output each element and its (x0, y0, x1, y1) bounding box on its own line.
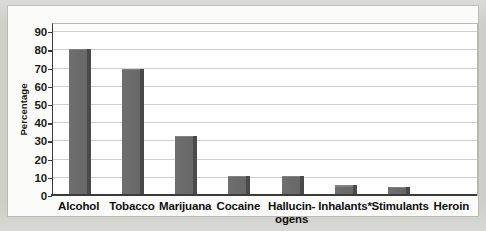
x-category-label-line: Hallucin- (268, 200, 315, 212)
x-category-label-line: ogens (265, 213, 318, 226)
bar (282, 176, 304, 196)
gridline (53, 104, 477, 105)
x-category-label: Marijuana (159, 200, 212, 213)
gridline (53, 122, 477, 123)
x-category-label-line: Heroin (434, 200, 470, 212)
plot-area (52, 23, 478, 196)
x-category-label-line: Cocaine (217, 200, 261, 212)
bar-top-highlight (69, 49, 87, 51)
bar (69, 49, 91, 197)
y-tick-label: 10 (35, 172, 47, 184)
y-axis-title-text: Percentage (18, 83, 29, 135)
y-tick-label: 70 (35, 63, 47, 75)
plot-inner (53, 24, 477, 196)
bar-side-shadow (246, 176, 250, 196)
y-tick-label: 80 (35, 44, 47, 56)
bar (228, 176, 250, 196)
x-category-label-line: Alcohol (58, 200, 99, 212)
bar-side-shadow (87, 49, 91, 197)
x-category-label: Heroin (425, 200, 478, 213)
gridline (53, 68, 477, 69)
figure-background: Percentage 0102030405060708090 AlcoholTo… (0, 0, 486, 231)
y-tick-label: 40 (35, 117, 47, 129)
gridline (53, 31, 477, 32)
x-category-label-line: Tobacco (109, 200, 154, 212)
x-category-label-line: Marijuana (159, 200, 211, 212)
bar-face (282, 176, 300, 196)
bar-top-highlight (175, 136, 193, 138)
bar (122, 69, 144, 196)
gridline (53, 86, 477, 87)
y-tick-label: 90 (35, 26, 47, 38)
y-tick-label: 50 (35, 99, 47, 111)
y-tick-label: 60 (35, 81, 47, 93)
x-axis-line (51, 194, 477, 196)
bar-top-highlight (122, 69, 140, 71)
bar-face (69, 49, 87, 197)
gridline (53, 140, 477, 141)
x-category-label: Stimulants (372, 200, 425, 213)
x-category-label: Tobacco (105, 200, 158, 213)
y-axis-title: Percentage (16, 23, 30, 196)
y-tick-label: 20 (35, 154, 47, 166)
bar-top-highlight (388, 187, 406, 189)
x-category-label: Alcohol (52, 200, 105, 213)
y-tick-label: 30 (35, 135, 47, 147)
bar-top-highlight (282, 176, 300, 178)
x-category-label: Cocaine (212, 200, 265, 213)
bar-face (228, 176, 246, 196)
bar-top-highlight (228, 176, 246, 178)
gridline (53, 177, 477, 178)
gridline (53, 49, 477, 50)
chart-plate: Percentage 0102030405060708090 AlcoholTo… (8, 6, 478, 216)
bar-side-shadow (300, 176, 304, 196)
y-tick-label: 0 (41, 190, 47, 202)
y-tick-mark (48, 196, 52, 197)
bar-face (122, 69, 140, 196)
x-category-label: Hallucin-ogens (265, 200, 318, 225)
bar (175, 136, 197, 196)
bar-side-shadow (140, 69, 144, 196)
bar-face (175, 136, 193, 196)
x-category-label: Inhalants* (318, 200, 371, 213)
x-category-label-line: Inhalants* (318, 200, 371, 212)
bar-top-highlight (335, 185, 353, 187)
x-category-label-line: Stimulants (372, 200, 429, 212)
gridline (53, 159, 477, 160)
bar-side-shadow (193, 136, 197, 196)
